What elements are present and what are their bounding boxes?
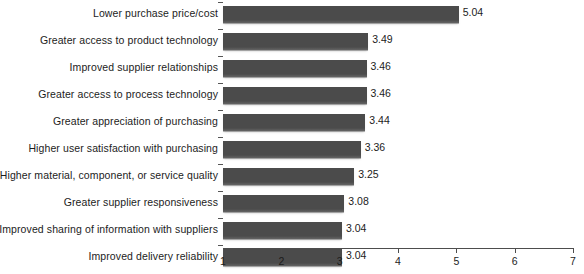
category-tick [218,137,223,138]
category-tick [218,2,223,3]
category-label: Higher user satisfaction with purchasing [28,143,218,154]
x-axis-tick [340,248,341,253]
bar [223,195,344,212]
bar-row: 3.44 [223,108,573,135]
x-axis-tick-label: 5 [453,256,459,267]
bar [223,6,459,23]
x-axis-tick-label: 7 [570,256,576,267]
x-axis-tick [281,248,282,253]
category-label: Higher material, component, or service q… [0,170,218,181]
category-label: Improved delivery reliability [88,251,218,262]
category-label: Greater appreciation of purchasing [53,116,218,127]
category-label: Greater supplier responsiveness [64,197,218,208]
bar-row: 3.25 [223,162,573,189]
x-axis-tick [573,248,574,253]
category-tick [218,218,223,219]
x-axis-tick [456,248,457,253]
bar-value-label: 5.04 [463,7,483,18]
bar [223,33,368,50]
category-tick [218,56,223,57]
bar [223,141,361,158]
horizontal-bar-chart: Lower purchase price/costGreater access … [0,0,584,274]
bar-row: 3.36 [223,135,573,162]
bar [223,168,354,185]
category-tick [218,110,223,111]
bar-row: 3.46 [223,81,573,108]
category-axis-labels: Lower purchase price/costGreater access … [0,0,218,248]
category-tick [218,191,223,192]
x-axis-tick [515,248,516,253]
bar-value-label: 3.46 [371,61,391,72]
bar [223,60,367,77]
bar-value-label: 3.49 [372,34,392,45]
bar-value-label: 3.04 [346,223,366,234]
bar-value-label: 3.46 [371,88,391,99]
bar-row: 3.49 [223,27,573,54]
bar-value-label: 3.25 [358,169,378,180]
bar-value-label: 3.36 [365,142,385,153]
bar-row: 3.46 [223,54,573,81]
category-label: Improved sharing of information with sup… [0,224,218,235]
bar [223,87,367,104]
category-tick [218,245,223,246]
x-axis-tick-label: 4 [395,256,401,267]
bar [223,114,365,131]
bar-value-label: 3.08 [348,196,368,207]
x-axis-tick-label: 3 [337,256,343,267]
category-tick [218,29,223,30]
bar [223,222,342,239]
x-axis-tick-label: 6 [512,256,518,267]
category-tick [218,164,223,165]
plot-area: 5.043.493.463.463.443.363.253.083.043.04… [223,0,573,248]
bar-row: 5.04 [223,0,573,27]
x-axis-tick-label: 2 [278,256,284,267]
category-label: Lower purchase price/cost [93,8,218,19]
bar-value-label: 3.04 [346,250,366,261]
category-label: Greater access to product technology [40,35,218,46]
x-axis-tick-label: 1 [220,256,226,267]
category-label: Improved supplier relationships [70,62,218,73]
bar-value-label: 3.44 [369,115,389,126]
x-axis-tick [398,248,399,253]
bar-row: 3.08 [223,189,573,216]
category-label: Greater access to process technology [38,89,218,100]
bar-row: 3.04 [223,216,573,243]
x-axis-tick [223,248,224,253]
category-tick [218,83,223,84]
